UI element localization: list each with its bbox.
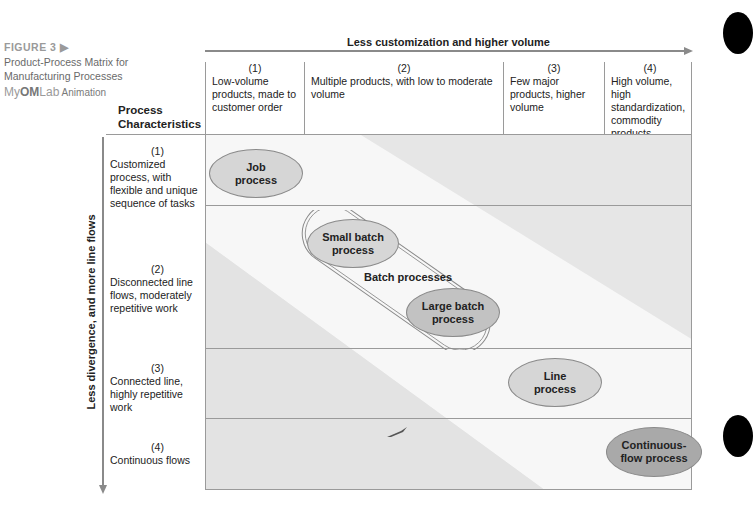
row-header-1: (1) Customized process, with flexible an… bbox=[106, 145, 205, 210]
hole-punch-top bbox=[723, 12, 753, 54]
row-divider bbox=[205, 489, 692, 490]
row-header-3: (3) Connected line, highly repetitive wo… bbox=[106, 362, 205, 414]
batch-processes-label: Batch processes bbox=[364, 271, 452, 283]
column-header-2: (2) Multiple products, with low to moder… bbox=[305, 62, 503, 134]
column-header-4: (4) High volume, high standardization, c… bbox=[605, 62, 695, 134]
arrow-right-icon bbox=[684, 47, 693, 55]
column-header-1: (1) Low-volume products, made to custome… bbox=[206, 62, 304, 134]
arrow-down-icon bbox=[99, 485, 107, 494]
row-divider bbox=[205, 205, 692, 206]
figure-number: FIGURE 3 bbox=[4, 41, 56, 53]
job-process-ellipse: Job process bbox=[209, 149, 303, 198]
animation-link[interactable]: MyOMLab Animation bbox=[4, 85, 106, 99]
row-header-4: (4) Continuous flows bbox=[106, 441, 205, 467]
pen-mark bbox=[385, 425, 411, 439]
line-process-ellipse: Line process bbox=[508, 358, 602, 407]
row-divider bbox=[106, 134, 692, 135]
small-batch-process-ellipse: Small batch process bbox=[307, 219, 399, 268]
horizontal-arrow-line bbox=[205, 50, 687, 52]
animation-label: Animation bbox=[62, 87, 106, 98]
large-batch-process-ellipse: Large batch process bbox=[406, 288, 500, 337]
myomlab-logo: MyOMLab bbox=[4, 85, 59, 99]
figure-label: FIGURE 3 ▶ bbox=[4, 41, 68, 53]
vertical-axis-label: Less divergence, and more line flows bbox=[85, 214, 97, 409]
process-characteristics-heading: Process Characteristics bbox=[118, 103, 198, 131]
column-header-3: (3) Few major products, higher volume bbox=[504, 62, 604, 134]
figure-title: Product-Process Matrix for Manufacturing… bbox=[4, 55, 194, 83]
continuous-flow-process-ellipse: Continuous-flow process bbox=[606, 427, 702, 477]
vertical-arrow-line bbox=[102, 137, 104, 489]
row-divider bbox=[205, 418, 692, 419]
triangle-right-icon: ▶ bbox=[60, 41, 69, 53]
hole-punch-bottom bbox=[723, 415, 753, 457]
horizontal-axis-label: Less customization and higher volume bbox=[205, 36, 692, 48]
row-header-2: (2) Disconnected line flows, moderately … bbox=[106, 263, 205, 315]
